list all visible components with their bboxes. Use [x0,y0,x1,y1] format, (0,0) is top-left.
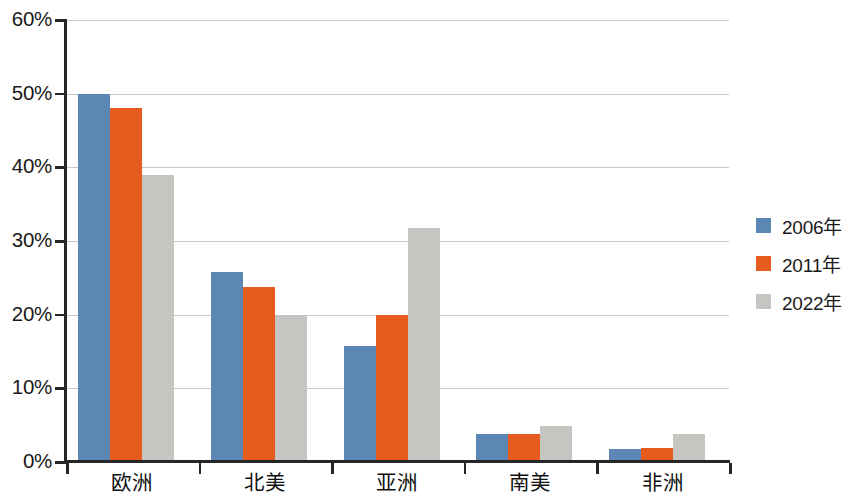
plot-area [66,20,729,462]
bar [110,108,142,462]
y-axis-tick-label: 20% [0,302,52,326]
legend-swatch-icon [756,256,771,271]
bar [243,287,275,462]
bar [142,175,174,462]
y-axis-tick-label: 60% [0,7,52,31]
bar [673,434,705,462]
bar [476,434,508,462]
y-axis-tick-label: 40% [0,154,52,178]
bar [376,315,408,462]
legend-item: 2022年 [756,282,842,320]
y-axis-tick-label: 30% [0,228,52,252]
gridline [66,94,729,95]
y-axis-tick-label: 50% [0,81,52,105]
legend-item-label: 2011年 [782,250,841,277]
legend-item: 2011年 [756,244,842,282]
legend-item-label: 2006年 [782,212,842,239]
legend-swatch-icon [756,294,771,309]
bar [508,434,540,462]
y-axis-tick-label: 0% [0,449,52,473]
bar [211,272,243,462]
gridline [66,167,729,168]
x-axis-category-label: 非洲 [596,466,729,492]
x-axis-category-label: 北美 [199,466,332,492]
legend-swatch-icon [756,218,771,233]
bar [344,346,376,462]
y-axis-line [64,19,67,463]
bar [408,228,440,462]
chart-legend: 2006年2011年2022年 [756,206,842,320]
legend-item: 2006年 [756,206,842,244]
x-axis-category-label: 南美 [464,466,597,492]
gridline [66,20,729,21]
bar-chart: 0%10%20%30%40%50%60% 欧洲北美亚洲南美非洲 2006年201… [0,0,850,492]
x-axis-tick [729,463,732,474]
x-axis-category-label: 亚洲 [331,466,464,492]
bar [78,94,110,462]
x-axis-line [64,460,730,463]
legend-item-label: 2022年 [782,288,842,315]
bar [540,426,572,462]
x-axis-category-label: 欧洲 [66,466,199,492]
y-axis-tick-label: 10% [0,375,52,399]
bar [275,315,307,462]
